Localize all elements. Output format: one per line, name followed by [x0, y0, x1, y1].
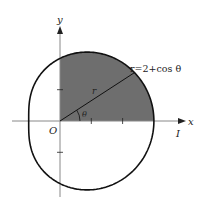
x-axis-arrow-icon — [178, 118, 186, 124]
radius-label: r — [92, 86, 97, 96]
region-label: I — [175, 128, 181, 139]
origin-label: O — [49, 125, 57, 136]
angle-label: θ — [82, 110, 87, 119]
y-axis-label: y — [56, 14, 63, 25]
curve-equation-label: r=2+cos θ — [130, 63, 181, 74]
polar-diagram: y x O I r θ r=2+cos θ — [0, 0, 203, 216]
y-axis-arrow-icon — [57, 26, 63, 34]
x-axis-label: x — [188, 116, 194, 127]
